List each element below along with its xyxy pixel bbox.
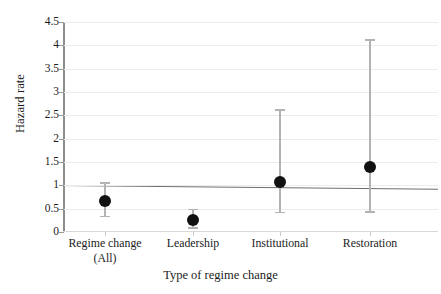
gridline — [64, 209, 438, 210]
error-bar-cap-lower — [188, 227, 198, 229]
y-axis-tick — [59, 162, 64, 163]
data-point-marker[interactable] — [99, 195, 111, 207]
gridline — [64, 22, 438, 23]
gridline — [64, 69, 438, 70]
y-axis-tick — [59, 69, 64, 70]
gridline — [64, 162, 438, 163]
x-axis-tick-label-line1: Leadership — [167, 236, 219, 250]
y-axis-tick — [59, 92, 64, 93]
error-bar-cap-upper — [188, 209, 198, 211]
y-axis-tick — [59, 45, 64, 46]
y-axis-tick-label: 4.5 — [31, 16, 59, 28]
y-axis-tick-label: 1.5 — [31, 156, 59, 168]
gridline — [64, 92, 438, 93]
x-axis-tick-label-line1: Institutional — [251, 236, 308, 250]
error-bar-cap-lower — [275, 212, 285, 214]
gridline — [64, 185, 438, 186]
error-bar-cap-upper — [275, 109, 285, 111]
gridline — [64, 115, 438, 116]
gridline — [64, 139, 438, 140]
gridline — [64, 45, 438, 46]
y-axis-tick-label: 2 — [31, 133, 59, 145]
data-point-marker[interactable] — [364, 161, 376, 173]
y-axis-tick — [59, 115, 64, 116]
y-axis-tick — [59, 209, 64, 210]
y-axis-tick-label: 3.5 — [31, 63, 59, 75]
y-axis-tick-label: 2.5 — [31, 109, 59, 121]
y-axis-tick-label: 1 — [31, 179, 59, 191]
x-axis-title: Type of regime change — [0, 268, 441, 283]
y-axis-tick — [59, 139, 64, 140]
y-axis-title: Hazard rate — [13, 56, 28, 152]
x-axis-tick-label-line2: (All) — [40, 251, 170, 266]
hazard-rate-chart: Hazard rate 00.511.522.533.544.5 Regime … — [0, 0, 441, 294]
y-axis-tick — [59, 185, 64, 186]
error-bar-cap-lower — [365, 211, 375, 213]
y-axis-tick-label: 4 — [31, 39, 59, 51]
x-axis-tick-label-line1: Restoration — [343, 236, 397, 250]
x-axis-line — [63, 231, 438, 232]
error-bar-cap-upper — [100, 182, 110, 184]
error-bar-line — [369, 39, 371, 211]
error-bar-cap-lower — [100, 216, 110, 218]
data-point-marker[interactable] — [187, 214, 199, 226]
y-axis-tick-label: 0.5 — [31, 203, 59, 215]
error-bar-cap-upper — [365, 39, 375, 41]
y-axis-line — [63, 22, 65, 232]
y-axis-tick — [59, 22, 64, 23]
data-point-marker[interactable] — [274, 176, 286, 188]
x-axis-tick-label: Restoration — [305, 236, 435, 251]
error-bar-line — [279, 109, 281, 212]
y-axis-tick-label: 3 — [31, 86, 59, 98]
plot-area: Regime change(All)LeadershipInstitutiona… — [63, 22, 438, 232]
y-axis-tick — [59, 232, 64, 233]
